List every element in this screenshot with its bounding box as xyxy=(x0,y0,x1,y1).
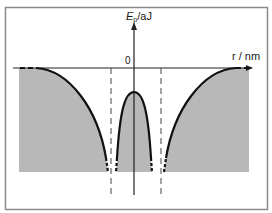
potential-curve-center-dashed-right xyxy=(151,158,152,172)
r-axis-label: r / nm xyxy=(232,50,260,62)
origin-label: 0 xyxy=(125,55,131,66)
potential-curve-center-dashed-left xyxy=(116,158,117,172)
potential-energy-diagram: Ep/aJ r / nm 0 xyxy=(0,0,272,213)
e-axis-label: Ep/aJ xyxy=(126,10,152,24)
